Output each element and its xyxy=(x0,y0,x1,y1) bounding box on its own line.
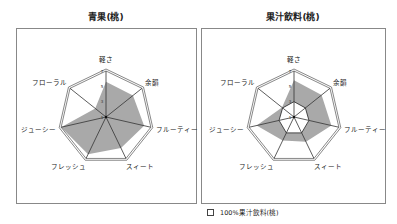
tick-label: 5 xyxy=(289,84,292,89)
center-dot xyxy=(105,116,107,118)
tick-label: 5 xyxy=(101,84,104,89)
axis-label: 余韻 xyxy=(333,78,347,87)
center-dot xyxy=(293,116,295,118)
tick-label: 3 xyxy=(289,99,292,104)
axis-label: 余韻 xyxy=(145,78,159,87)
axis-label: 軽さ xyxy=(287,55,301,64)
axis-label: フルーティー xyxy=(344,126,386,134)
tick-label: 7 xyxy=(101,69,104,74)
radar-charts: 7531軽さ余韻フルーティースィートフレッシュジューシーフローラル7531軽さ余… xyxy=(0,0,397,224)
tick-label: 7 xyxy=(289,69,292,74)
tick-label: 1 xyxy=(101,115,104,120)
axis-label: 軽さ xyxy=(99,55,113,64)
axis-label: フルーティー xyxy=(156,126,198,134)
legend: 100%果汁飲料(桃) xyxy=(207,207,279,217)
radar-chart-left: 7531軽さ余韻フルーティースィートフレッシュジューシーフローラル xyxy=(21,55,197,171)
axis-label: フローラル xyxy=(220,79,255,87)
axis-label: スィート xyxy=(126,163,154,171)
axis-label: ジューシー xyxy=(209,126,244,134)
axis-label: ジューシー xyxy=(21,126,56,134)
axis-label: フレッシュ xyxy=(239,163,274,171)
tick-label: 3 xyxy=(101,99,104,104)
axis-label: フローラル xyxy=(32,79,67,87)
radar-chart-right: 7531軽さ余韻フルーティースィートフレッシュジューシーフローラル xyxy=(209,55,385,171)
legend-swatch-icon xyxy=(207,209,214,216)
tick-label: 1 xyxy=(289,115,292,120)
legend-label: 100%果汁飲料(桃) xyxy=(220,207,279,217)
axis-label: スィート xyxy=(314,163,342,171)
axis-label: フレッシュ xyxy=(51,163,86,171)
